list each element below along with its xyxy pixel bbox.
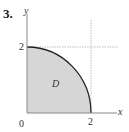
origin-label: 0 [19, 118, 24, 129]
y-tick-2: 2 [19, 41, 24, 52]
x-tick-2: 2 [88, 116, 93, 127]
y-axis-label: y [24, 5, 28, 16]
x-axis-label: x [118, 106, 122, 117]
quarter-disk-diagram [0, 0, 129, 132]
region-label: D [52, 78, 59, 89]
